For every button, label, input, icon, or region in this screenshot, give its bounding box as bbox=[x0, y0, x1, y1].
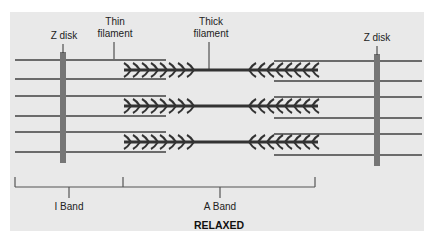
thin-filament-label-line2: filament bbox=[97, 28, 132, 40]
thick-filaments bbox=[124, 63, 319, 149]
leader-lines bbox=[63, 42, 377, 69]
thick-filament-label-line2: filament bbox=[193, 28, 228, 40]
z-disk-right-label: Z disk bbox=[364, 32, 391, 44]
z-disk-right bbox=[374, 54, 380, 166]
a-band-label: A Band bbox=[204, 201, 236, 213]
z-disk-left-label: Z disk bbox=[51, 30, 78, 42]
i-band-label: I Band bbox=[55, 201, 84, 213]
state-title: RELAXED bbox=[194, 219, 244, 231]
thin-filament-label-line1: Thin bbox=[105, 16, 124, 28]
band-brackets bbox=[15, 177, 315, 198]
z-disk-left bbox=[60, 52, 66, 163]
thick-filament-label-line1: Thick bbox=[199, 16, 223, 28]
